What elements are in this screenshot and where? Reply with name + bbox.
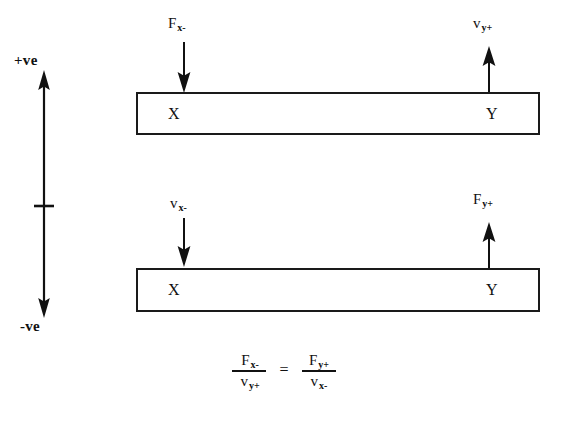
equation-right-numerator-symbol: F [309, 352, 317, 368]
bottom-left-vector-symbol: v [170, 195, 178, 211]
equation-left-numerator-symbol: F [241, 352, 249, 368]
top-right-vector-symbol: v [473, 15, 481, 31]
top-right-vector-subscript: y+ [482, 22, 493, 33]
sign-convention-axis: +ve -ve [0, 0, 110, 360]
equation-equals-sign: = [279, 361, 288, 381]
bottom-beam-right-arrow-up [475, 220, 505, 272]
equation-left-denominator: vy+ [237, 373, 261, 390]
equation-left-numerator: Fx- [238, 352, 261, 369]
reciprocity-equation: Fx- vy+ = Fy+ vx- [0, 352, 568, 391]
equation-right-numerator-subscript: y+ [318, 359, 329, 370]
beam-bottom-node-y: Y [486, 282, 498, 298]
axis-positive-label: +ve [14, 52, 38, 69]
equation-right-denominator: vx- [308, 373, 330, 390]
axis-negative-label: -ve [20, 318, 40, 335]
equation-left-fraction: Fx- vy+ [232, 352, 266, 391]
equation-left-denominator-subscript: y+ [249, 380, 260, 391]
bottom-right-vector-subscript: y+ [482, 198, 493, 209]
beam-bottom: X Y [136, 268, 540, 312]
bottom-beam-left-arrow-down [170, 216, 200, 270]
bottom-beam-right-vector-label: Fy+ [473, 192, 492, 207]
bottom-left-vector-subscript: x- [179, 202, 187, 213]
top-beam-left-vector-label: Fx- [168, 16, 185, 31]
beam-top-node-y: Y [486, 106, 498, 122]
equation-left-denominator-symbol: v [240, 373, 248, 389]
diagram-canvas: +ve -ve Fx- vy+ X Y vx- [0, 0, 568, 444]
equation-right-denominator-symbol: v [311, 373, 319, 389]
equation-right-fraction-bar [302, 370, 336, 372]
top-beam-right-vector-label: vy+ [473, 16, 491, 31]
beam-bottom-node-x: X [168, 282, 180, 298]
top-beam-left-arrow-down [170, 40, 200, 96]
equation-right-numerator: Fy+ [306, 352, 331, 369]
equation-left-numerator-subscript: x- [250, 359, 258, 370]
equation-right-denominator-subscript: x- [319, 380, 327, 391]
bottom-beam-left-vector-label: vx- [170, 196, 186, 211]
beam-top-node-x: X [168, 106, 180, 122]
top-left-vector-symbol: F [168, 15, 176, 31]
top-beam-right-arrow-up [475, 44, 505, 96]
equation-left-fraction-bar [232, 370, 266, 372]
bottom-right-vector-symbol: F [473, 191, 481, 207]
beam-top: X Y [136, 92, 540, 135]
equation-right-fraction: Fy+ vx- [302, 352, 336, 391]
top-left-vector-subscript: x- [177, 22, 185, 33]
